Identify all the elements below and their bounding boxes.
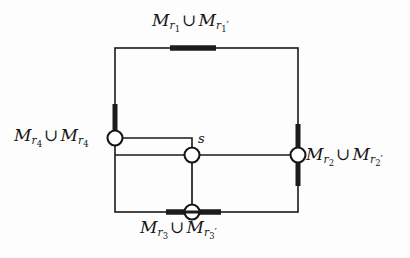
label-top-right-base: M — [198, 10, 216, 30]
label-left: Mr4∪Mr4 — [14, 127, 88, 148]
label-bottom-right-prime: ′ — [214, 226, 216, 238]
label-top: Mr1∪Mr1′ — [152, 12, 229, 33]
right-node — [291, 148, 306, 163]
label-left-right-subsub: 4 — [83, 139, 88, 149]
union-operator-icon: ∪ — [42, 125, 60, 145]
label-center-node-s: s — [198, 132, 205, 145]
left-node — [108, 131, 123, 146]
graph-diagram: Mr1∪Mr1′ Mr4∪Mr4 Mr2∪Mr2′ Mr3∪Mr3′ s — [0, 0, 410, 258]
center-node-s — [185, 148, 200, 163]
union-operator-icon: ∪ — [334, 144, 352, 164]
label-top-right-prime: ′ — [226, 19, 228, 31]
label-bottom-right-base: M — [186, 217, 204, 237]
label-bottom: Mr3∪Mr3′ — [140, 219, 217, 240]
label-right-right-prime: ′ — [380, 153, 382, 165]
label-right-left-base: M — [306, 144, 324, 164]
left-to-center-path — [115, 138, 192, 155]
label-right-right-base: M — [352, 144, 370, 164]
label-top-left-base: M — [152, 10, 170, 30]
outer-rectangle — [115, 48, 298, 212]
label-left-right-base: M — [60, 125, 78, 145]
union-operator-icon: ∪ — [180, 10, 198, 30]
label-left-left-base: M — [14, 125, 32, 145]
label-right: Mr2∪Mr2′ — [306, 146, 383, 167]
label-bottom-left-base: M — [140, 217, 158, 237]
union-operator-icon: ∪ — [168, 217, 186, 237]
